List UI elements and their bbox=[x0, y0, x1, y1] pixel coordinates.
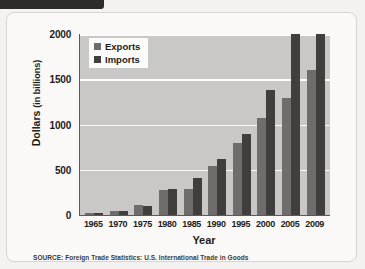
bar-exports-1985 bbox=[184, 189, 193, 215]
bar-exports-1970 bbox=[110, 211, 119, 215]
x-axis-tick-label: 2009 bbox=[302, 219, 327, 229]
x-axis-tick-label: 1965 bbox=[81, 219, 106, 229]
y-axis-tick-label: 1500 bbox=[50, 74, 71, 85]
bar-exports-2000 bbox=[257, 118, 266, 215]
bar-exports-2005 bbox=[282, 98, 291, 215]
bar-group bbox=[205, 34, 230, 215]
bar-exports-1995 bbox=[233, 143, 242, 215]
y-axis-tick-label: 500 bbox=[55, 164, 71, 175]
bar-group bbox=[230, 34, 255, 215]
chart-figure-card: Dollars (in billions) 0500100015002000 E… bbox=[6, 12, 357, 262]
bar-imports-1995 bbox=[242, 134, 251, 215]
y-axis-tick-labels: 0500100015002000 bbox=[31, 34, 75, 215]
bar-imports-1990 bbox=[217, 159, 226, 215]
x-axis-tick-label: 1985 bbox=[179, 219, 204, 229]
bar-imports-1965 bbox=[94, 213, 103, 215]
legend-item-imports: Imports bbox=[94, 54, 140, 65]
x-axis-tick-label: 2005 bbox=[278, 219, 303, 229]
bar-exports-1965 bbox=[85, 213, 94, 215]
bar-exports-1980 bbox=[159, 190, 168, 215]
bar-group bbox=[156, 34, 181, 215]
x-axis-tick-labels: 1965197019751980198519901995200020052009 bbox=[79, 219, 329, 229]
legend-item-exports: Exports bbox=[94, 41, 140, 52]
bar-group bbox=[303, 34, 328, 215]
bar-imports-2000 bbox=[266, 90, 275, 215]
x-axis-tick-label: 1990 bbox=[204, 219, 229, 229]
source-note: SOURCE: Foreign Trade Statistics: U.S. I… bbox=[33, 254, 248, 261]
bar-group bbox=[180, 34, 205, 215]
x-axis-tick-label: 1980 bbox=[155, 219, 180, 229]
bar-exports-1975 bbox=[134, 205, 143, 215]
chart-legend: ExportsImports bbox=[89, 38, 148, 68]
bar-imports-1975 bbox=[143, 206, 152, 215]
x-axis-tick-label: 2000 bbox=[253, 219, 278, 229]
y-axis-tick-label: 1000 bbox=[50, 119, 71, 130]
decorative-top-tab bbox=[0, 0, 104, 9]
bar-exports-1990 bbox=[208, 166, 217, 215]
legend-label: Imports bbox=[105, 54, 140, 65]
bar-exports-2009 bbox=[307, 70, 316, 215]
legend-swatch-icon bbox=[94, 56, 101, 63]
bar-group bbox=[279, 34, 304, 215]
x-axis-tick-label: 1995 bbox=[229, 219, 254, 229]
y-axis-tick-label: 2000 bbox=[50, 29, 71, 40]
y-axis-tick-label: 0 bbox=[66, 210, 71, 221]
bar-imports-1980 bbox=[168, 189, 177, 215]
x-axis-tick-label: 1975 bbox=[130, 219, 155, 229]
bar-imports-1970 bbox=[119, 211, 128, 215]
bar-group bbox=[254, 34, 279, 215]
bar-imports-2005 bbox=[291, 34, 300, 215]
legend-swatch-icon bbox=[94, 43, 101, 50]
bar-imports-2009 bbox=[316, 34, 325, 215]
legend-label: Exports bbox=[105, 41, 140, 52]
x-axis-title: Year bbox=[79, 234, 329, 246]
x-axis-tick-label: 1970 bbox=[106, 219, 131, 229]
bar-imports-1985 bbox=[193, 178, 202, 215]
